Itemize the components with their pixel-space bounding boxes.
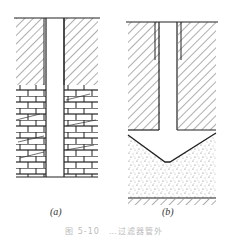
panel-b [126,22,218,205]
sand-layer-b [128,133,216,198]
clay-layer-right-a [64,18,98,85]
diagram-canvas [0,0,228,238]
panel-b-label: (b) [162,206,174,217]
clay-layer-left-a [16,18,44,85]
figure-caption: 图 5-10 …过滤器管外 [0,225,228,236]
rock-layer-right-a [64,85,98,177]
figure: (a) (b) 图 5-10 …过滤器管外 [0,0,228,238]
panel-a [14,18,100,177]
clay-layer-right-b [178,22,216,130]
panel-a-label: (a) [50,206,62,217]
rock-layer-left-a [16,85,46,177]
